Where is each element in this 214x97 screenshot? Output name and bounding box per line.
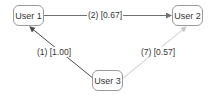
node-label: User 2 — [174, 11, 201, 21]
edge-label-user3-user1: (1) [1.00] — [36, 47, 72, 57]
node-label: User 1 — [15, 11, 42, 21]
edge-label-user3-user2: (7) [0.57] — [140, 47, 176, 57]
edge-label-user1-user2: (2) [0.67] — [87, 10, 123, 20]
node-user-3[interactable]: User 3 — [92, 70, 123, 91]
node-user-1[interactable]: User 1 — [13, 5, 44, 26]
node-user-2[interactable]: User 2 — [172, 5, 203, 26]
node-label: User 3 — [94, 76, 121, 86]
